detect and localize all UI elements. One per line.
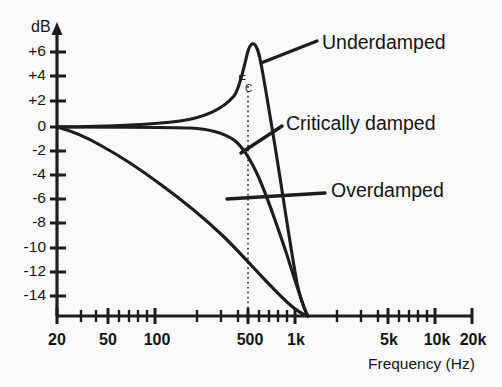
x-tick-label-20: 20: [48, 331, 66, 348]
y-tick-label-0: 0: [37, 117, 46, 134]
y-tick-label-2p: +2: [28, 91, 46, 108]
y-tick-label-8n: -8: [32, 213, 46, 230]
y-tick-label-4n: -4: [32, 165, 46, 182]
x-tick-label-100: 100: [144, 331, 171, 348]
x-tick-label-5k: 5k: [380, 331, 398, 348]
x-tick-label-500: 500: [237, 331, 264, 348]
leader-line-overdamped: [227, 193, 325, 199]
callout-label-underdamped: Underdamped: [322, 31, 446, 53]
cutoff-marker: F C: [238, 72, 252, 314]
y-tick-label-6p: +6: [28, 42, 46, 59]
y-tick-label-10n: -10: [24, 238, 47, 255]
fc-label-subscript: C: [245, 83, 252, 94]
frequency-response-chart: dB +6 +4 +2 0 -2 -4 -6 -8 -10 -12 -14: [0, 0, 502, 387]
x-axis-title: Frequency (Hz): [368, 355, 475, 372]
x-tick-label-10k: 10k: [424, 331, 451, 348]
curve-overdamped: [57, 127, 308, 316]
x-axis: 20 50 100 500 1k 5k 10k 20k Frequency (H…: [48, 308, 486, 372]
y-tick-label-2n: -2: [32, 141, 46, 158]
y-tick-label-4p: +4: [28, 66, 46, 83]
x-tick-label-20k: 20k: [460, 331, 487, 348]
y-axis-unit-label: dB: [31, 18, 51, 35]
leader-line-underdamped: [261, 41, 317, 63]
callout-label-overdamped: Overdamped: [331, 179, 444, 201]
y-axis: dB +6 +4 +2 0 -2 -4 -6 -8 -10 -12 -14: [24, 18, 66, 316]
y-axis-arrow-icon: [52, 22, 63, 35]
callout-underdamped: Underdamped: [261, 31, 446, 63]
y-tick-label-6n: -6: [32, 189, 46, 206]
callout-label-critically-damped: Critically damped: [286, 112, 436, 134]
y-tick-label-12n: -12: [24, 262, 46, 279]
curve-underdamped: [57, 44, 308, 316]
response-curves: [57, 44, 308, 316]
chart-svg: dB +6 +4 +2 0 -2 -4 -6 -8 -10 -12 -14: [0, 0, 502, 387]
x-tick-label-1k: 1k: [287, 331, 305, 348]
y-tick-label-14n: -14: [24, 286, 47, 303]
x-tick-label-50: 50: [99, 331, 117, 348]
